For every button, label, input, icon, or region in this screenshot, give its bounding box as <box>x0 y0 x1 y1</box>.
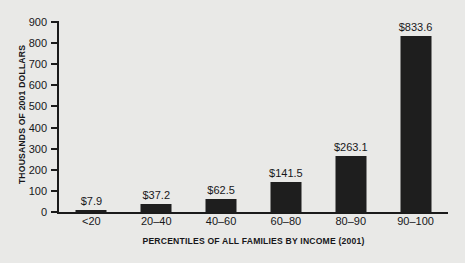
bar-chart: THOUSANDS OF 2001 DOLLARS 01002003004005… <box>0 0 465 263</box>
y-axis-tick-label: 700 <box>29 59 47 70</box>
x-axis-category-label: 60–80 <box>271 216 302 227</box>
y-axis-tick-label: 0 <box>41 207 47 218</box>
plot-area: 0100200300400500600700800900 $7.9<20$37.… <box>59 22 448 212</box>
x-axis-category-label: 20–40 <box>141 216 172 227</box>
bar-value-label: $833.6 <box>399 22 433 33</box>
bar-value-label: $263.1 <box>334 142 368 153</box>
y-axis-tick: 400 <box>51 127 57 129</box>
y-axis-tick: 200 <box>51 169 57 171</box>
bar-group: $62.540–60 <box>189 22 254 212</box>
bar-value-label: $141.5 <box>269 168 303 179</box>
x-axis-title: PERCENTILES OF ALL FAMILIES BY INCOME (2… <box>59 236 448 246</box>
bar-value-label: $7.9 <box>81 196 102 207</box>
y-axis-tick-label: 900 <box>29 17 47 28</box>
bar <box>76 210 107 212</box>
bar <box>335 156 366 212</box>
bar-value-label: $37.2 <box>142 190 170 201</box>
y-axis-tick: 800 <box>51 42 57 44</box>
bar-group: $7.9<20 <box>59 22 124 212</box>
bar-group: $263.180–90 <box>318 22 383 212</box>
y-axis-tick-label: 300 <box>29 143 47 154</box>
y-axis-tick: 700 <box>51 63 57 65</box>
x-axis-category-label: 90–100 <box>397 216 434 227</box>
bar-group: $37.220–40 <box>124 22 189 212</box>
y-axis-tick: 100 <box>51 190 57 192</box>
y-axis-tick-label: 400 <box>29 122 47 133</box>
y-axis-tick-label: 200 <box>29 164 47 175</box>
bar <box>270 182 301 212</box>
y-axis-tick-label: 600 <box>29 80 47 91</box>
y-axis-tick-label: 800 <box>29 38 47 49</box>
y-axis-tick: 600 <box>51 84 57 86</box>
bar-value-label: $62.5 <box>207 185 235 196</box>
bar-group: $833.690–100 <box>383 22 448 212</box>
bar <box>206 199 237 212</box>
y-axis-tick: 500 <box>51 105 57 107</box>
y-axis-tick-label: 500 <box>29 101 47 112</box>
bar <box>400 36 431 212</box>
x-axis-category-label: 40–60 <box>206 216 237 227</box>
y-axis-tick-label: 100 <box>29 185 47 196</box>
x-axis-category-label: <20 <box>82 216 101 227</box>
y-axis-tick: 300 <box>51 148 57 150</box>
x-axis-category-label: 80–90 <box>335 216 366 227</box>
y-axis-tick: 0 <box>51 211 57 213</box>
y-axis-tick: 900 <box>51 21 57 23</box>
bar-group: $141.560–80 <box>254 22 319 212</box>
x-axis-line <box>57 212 448 214</box>
bar <box>141 204 172 212</box>
